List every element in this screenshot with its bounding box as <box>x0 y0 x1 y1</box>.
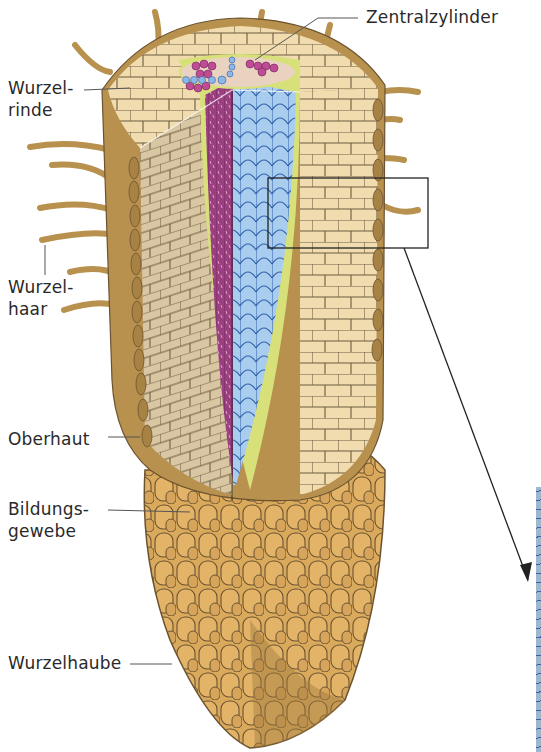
label-oberhaut: Oberhaut <box>8 428 90 450</box>
magnified-detail-strip <box>536 487 541 752</box>
label-wurzelhaar: Wurzel- haar <box>8 276 74 320</box>
label-wurzelhaube: Wurzelhaube <box>8 652 122 674</box>
label-zentralzylinder: Zentralzylinder <box>366 6 498 28</box>
detail-arrow <box>404 248 528 580</box>
root-tip-illustration <box>0 0 541 752</box>
label-bildungsgewebe: Bildungs- gewebe <box>8 498 89 542</box>
label-wurzelrinde: Wurzel- rinde <box>8 77 74 121</box>
